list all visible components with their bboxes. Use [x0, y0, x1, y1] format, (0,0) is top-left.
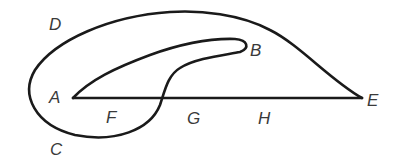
label-h: H [258, 109, 271, 128]
label-b: B [250, 41, 261, 60]
label-a: A [48, 88, 60, 107]
label-g: G [187, 109, 200, 128]
label-e: E [367, 91, 379, 110]
label-d: D [49, 15, 61, 34]
curve-diagram: D B A E F G H C [0, 0, 403, 159]
label-c: C [50, 140, 63, 159]
label-f: F [106, 108, 118, 127]
